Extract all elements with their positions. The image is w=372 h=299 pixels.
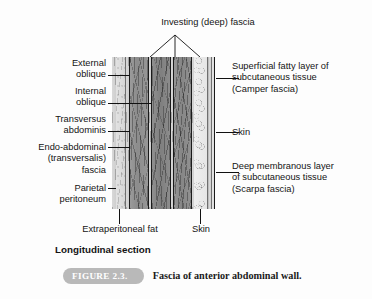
label-parietal-peritoneum: Parietal peritoneum — [28, 183, 106, 206]
tissue-cross-section — [112, 57, 215, 209]
label-transversus-abdominis: Transversus abdominis — [18, 114, 106, 137]
leader-internal-oblique — [108, 103, 152, 104]
figure-caption-row: FIGURE 2.3. Fascia of anterior abdominal… — [63, 268, 302, 284]
leader-parietal-peritoneum — [108, 188, 116, 189]
leader-transversus-abdominis — [108, 131, 130, 132]
label-extraperitoneal-fat: Extraperitoneal fat — [55, 224, 185, 235]
label-external-oblique: External oblique — [28, 58, 106, 81]
label-endo-abdominal-fascia: Endo-abdominal (transversalis) fascia — [8, 142, 106, 176]
label-internal-oblique: Internal oblique — [28, 86, 106, 109]
camper-fascia-band — [194, 57, 207, 209]
label-skin-bottom: Skin — [181, 224, 221, 235]
internal-oblique-band — [152, 57, 170, 209]
label-camper-fascia: Superficial fatty layer of subcutaneous … — [232, 61, 372, 95]
figure-number-badge: FIGURE 2.3. — [63, 268, 144, 284]
leader-skin-bottom — [200, 209, 201, 224]
longitudinal-section-label: Longitudinal section — [55, 244, 235, 255]
figure-caption-text: Fascia of anterior abdominal wall. — [153, 270, 302, 281]
leader-endo-abdominal-fascia — [108, 147, 130, 148]
investing-fascia-label: Investing (deep) fascia — [128, 17, 288, 28]
extraperitoneal-fat-band — [116, 57, 125, 209]
figure-page: Investing (deep) fascia — [0, 0, 372, 299]
label-skin-right: Skin — [232, 127, 292, 138]
leader-external-oblique — [108, 75, 130, 76]
label-scarpa-fascia: Deep membranous layer of subcutaneous ti… — [232, 161, 372, 195]
leader-extraperitoneal-fat — [119, 209, 120, 224]
transversus-abdominis-band — [130, 57, 148, 209]
external-oblique-band — [174, 57, 191, 209]
